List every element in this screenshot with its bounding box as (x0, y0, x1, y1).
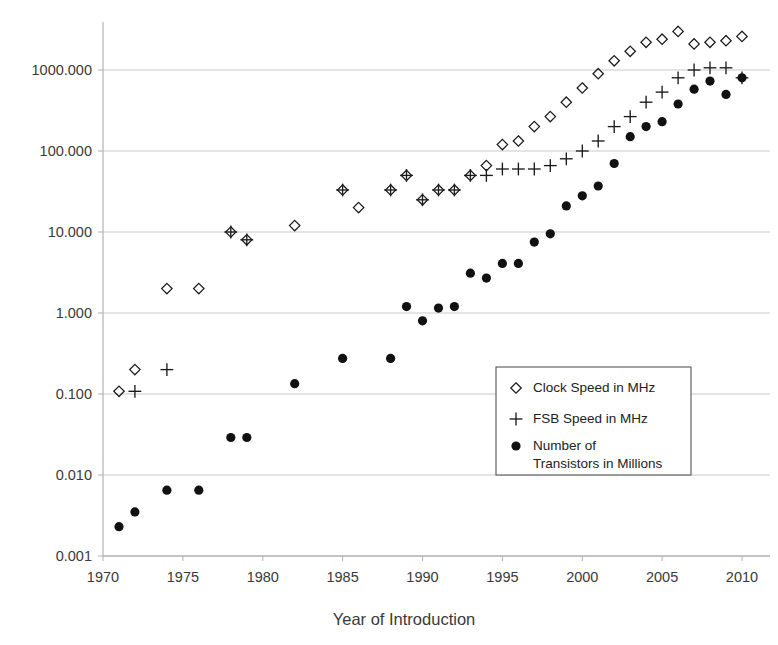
axes-group (98, 22, 770, 561)
data-point-dot (674, 99, 683, 108)
data-point-dot (194, 486, 203, 495)
data-point-plus (688, 64, 701, 77)
y-axis-tick-label: 1.000 (56, 305, 92, 321)
y-axis-tick-label: 1000.000 (32, 62, 92, 78)
data-point-plus (704, 61, 717, 74)
x-axis-tick-label: 1980 (247, 569, 279, 585)
data-point-dot (130, 507, 139, 516)
data-point-plus (544, 159, 557, 172)
y-axis-tick-label: 100.000 (40, 143, 92, 159)
data-point-diamond (194, 283, 204, 293)
x-axis-tick-labels: 197019751980198519901995200020052010 (87, 569, 758, 585)
data-point-diamond (290, 220, 300, 230)
data-point-diamond (162, 283, 172, 293)
data-point-dot (530, 238, 539, 247)
x-axis-tick-label: 1970 (87, 569, 119, 585)
data-point-plus (432, 184, 445, 197)
legend-label: FSB Speed in MHz (533, 411, 648, 426)
data-point-diamond (497, 139, 507, 149)
data-point-plus (416, 193, 429, 206)
data-point-plus (161, 363, 174, 376)
data-point-diamond (561, 97, 571, 107)
x-axis-tick-label: 2000 (566, 569, 598, 585)
data-point-dot (338, 354, 347, 363)
data-point-diamond (577, 83, 587, 93)
data-point-plus (240, 233, 253, 246)
data-point-dot (162, 486, 171, 495)
data-point-dot (705, 77, 714, 86)
data-point-plus (672, 71, 685, 84)
y-axis-tick-label: 0.010 (56, 467, 92, 483)
data-point-diamond (657, 34, 667, 44)
data-point-plus (448, 184, 461, 197)
data-point-plus (656, 86, 669, 99)
data-point-plus (512, 163, 525, 176)
y-axis-tick-label: 10.000 (48, 224, 92, 240)
scatter-plot: 0.0010.0100.1001.00010.000100.0001000.00… (0, 0, 778, 645)
data-point-diamond (114, 386, 124, 396)
data-point-dot (610, 159, 619, 168)
series-diamond (114, 26, 747, 396)
data-point-diamond (689, 39, 699, 49)
data-point-dot (626, 132, 635, 141)
data-point-diamond (705, 37, 715, 47)
x-axis-title: Year of Introduction (333, 610, 476, 628)
data-point-dot (562, 201, 571, 210)
x-axis-tick-label: 2005 (646, 569, 678, 585)
legend: Clock Speed in MHzFSB Speed in MHzNumber… (496, 367, 691, 475)
y-axis-tick-label: 0.100 (56, 386, 92, 402)
data-point-plus (576, 145, 589, 158)
data-point-plus (384, 184, 397, 197)
data-point-plus (528, 163, 541, 176)
data-point-dot (482, 274, 491, 283)
data-point-dot (721, 90, 730, 99)
data-point-plus (400, 169, 413, 182)
data-point-dot (578, 191, 587, 200)
data-point-plus (336, 184, 349, 197)
data-point-diamond (130, 364, 140, 374)
data-point-dot (290, 379, 299, 388)
data-point-diamond (721, 36, 731, 46)
gridlines-group (103, 70, 770, 556)
data-point-plus (720, 61, 733, 74)
data-point-diamond (529, 121, 539, 131)
data-point-diamond (737, 31, 747, 41)
data-point-dot (242, 433, 251, 442)
series-plus (129, 61, 749, 397)
data-point-diamond (625, 46, 635, 56)
data-point-diamond (513, 136, 523, 146)
data-point-plus (129, 385, 142, 398)
data-point-dot (402, 302, 411, 311)
data-point-plus (624, 110, 637, 123)
legend-label: Number of (533, 438, 596, 453)
data-point-plus (480, 169, 493, 182)
data-point-dot (466, 269, 475, 278)
data-point-diamond (641, 37, 651, 47)
data-point-plus (592, 135, 605, 148)
data-point-dot (450, 302, 459, 311)
legend-label: Clock Speed in MHz (533, 380, 656, 395)
data-point-dot (226, 433, 235, 442)
x-axis-tick-label: 1995 (486, 569, 518, 585)
y-axis-tick-label: 0.001 (56, 548, 92, 564)
data-point-plus (640, 96, 653, 109)
data-point-dot (658, 117, 667, 126)
legend-marker-dot (511, 441, 520, 450)
data-point-diamond (673, 26, 683, 36)
data-point-dot (737, 73, 746, 82)
data-point-dot (690, 85, 699, 94)
data-point-plus (464, 169, 477, 182)
x-axis-tick-label: 2010 (726, 569, 758, 585)
data-point-dot (418, 316, 427, 325)
data-point-plus (224, 226, 237, 239)
data-point-diamond (609, 56, 619, 66)
data-point-plus (560, 152, 573, 165)
data-point-plus (496, 163, 509, 176)
x-axis-tick-label: 1990 (406, 569, 438, 585)
x-axis-tick-label: 1975 (167, 569, 199, 585)
x-axis-tick-label: 1985 (326, 569, 358, 585)
data-point-diamond (353, 202, 363, 212)
data-point-plus (608, 120, 621, 133)
data-point-diamond (545, 111, 555, 121)
data-point-dot (434, 304, 443, 313)
